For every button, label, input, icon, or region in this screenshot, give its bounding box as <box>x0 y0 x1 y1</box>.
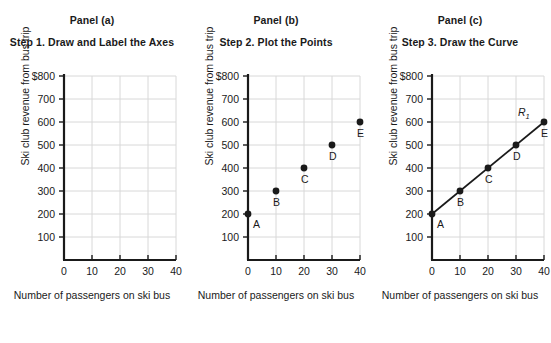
data-point-label-c: C <box>301 173 309 185</box>
panel-a-ytick-700: 700 <box>37 93 55 105</box>
panel-a-ytick-300: 300 <box>37 185 55 197</box>
panel-a-x-axis-label: Number of passengers on ski bus <box>4 288 180 302</box>
panel-c-ytick-700: 700 <box>405 93 423 105</box>
panel-b-ytick-700: 700 <box>221 93 239 105</box>
data-point-label-c: C <box>485 173 493 185</box>
data-point-e <box>357 119 364 126</box>
panel-a-step: Step 1. Draw and Label the Axes <box>6 36 178 50</box>
panel-c-ytick-200: 200 <box>405 208 423 220</box>
panel-c-xtick-10: 10 <box>454 265 466 277</box>
panel-c-xtick-40: 40 <box>538 265 550 277</box>
panel-c-ytick-300: 300 <box>405 185 423 197</box>
panel-b-ytick-800: $800 <box>216 70 240 82</box>
panel-b-ytick-300: 300 <box>221 185 239 197</box>
panel-b-ytick-200: 200 <box>221 208 239 220</box>
panel-b-xtick-40: 40 <box>354 265 366 277</box>
data-point-label-b: B <box>457 196 464 208</box>
data-point-label-d: D <box>329 150 337 162</box>
panel-c-ytick-500: 500 <box>405 139 423 151</box>
panel-b-xtick-30: 30 <box>326 265 338 277</box>
data-point-c <box>485 165 492 172</box>
curve-label-subscript: 1 <box>526 112 530 121</box>
panel-b-ytick-400: 400 <box>221 162 239 174</box>
panel-c-xtick-30: 30 <box>510 265 522 277</box>
data-point-d <box>329 142 336 149</box>
panel-a-xtick-20: 20 <box>114 265 126 277</box>
data-point-label-a: A <box>437 218 444 230</box>
panel-b-xtick-0: 0 <box>245 265 251 277</box>
panel-a-ytick-100: 100 <box>37 231 55 243</box>
data-point-e <box>541 119 548 126</box>
panel-a-xtick-10: 10 <box>86 265 98 277</box>
panel-b: Panel (b) Step 2. Plot the Points Ski cl… <box>184 0 368 343</box>
data-point-a <box>429 211 436 218</box>
panel-c-plot: $800 700 600 500 400 300 200 100 0 10 20… <box>368 68 551 283</box>
panel-c-x-axis-label: Number of passengers on ski bus <box>372 288 548 302</box>
panel-c-ytick-800: $800 <box>400 70 424 82</box>
panel-b-xtick-10: 10 <box>270 265 282 277</box>
panel-b-plot: $800 700 600 500 400 300 200 100 0 10 20… <box>184 68 368 283</box>
panel-a-ytick-500: 500 <box>37 139 55 151</box>
data-point-label-e: E <box>357 127 364 139</box>
data-point-label-e: E <box>541 127 548 139</box>
panel-c-ytick-600: 600 <box>405 116 423 128</box>
data-point-c <box>301 165 308 172</box>
figure-three-panel-graph: Panel (a) Step 1. Draw and Label the Axe… <box>0 0 551 343</box>
data-point-label-d: D <box>513 150 521 162</box>
panel-c-xtick-20: 20 <box>482 265 494 277</box>
panel-c-ytick-100: 100 <box>405 231 423 243</box>
panel-a-gridlines <box>64 76 176 260</box>
panel-c-xtick-0: 0 <box>429 265 435 277</box>
panel-a-ytick-200: 200 <box>37 208 55 220</box>
data-point-b <box>457 188 464 195</box>
data-point-a <box>245 211 252 218</box>
curve-label-r1: R1 <box>518 106 530 121</box>
panel-a: Panel (a) Step 1. Draw and Label the Axe… <box>0 0 184 343</box>
panel-a-ytick-400: 400 <box>37 162 55 174</box>
panel-a-plot: $800 700 600 500 400 300 200 100 0 10 20… <box>0 68 184 283</box>
panel-a-ytick-600: 600 <box>37 116 55 128</box>
panel-c: Panel (c) Step 3. Draw the Curve Ski clu… <box>368 0 551 343</box>
data-point-d <box>513 142 520 149</box>
panel-a-ytick-800: $800 <box>32 70 56 82</box>
panel-a-xtick-0: 0 <box>61 265 67 277</box>
data-point-b <box>273 188 280 195</box>
panel-a-xtick-40: 40 <box>170 265 182 277</box>
data-point-label-b: B <box>273 196 280 208</box>
panel-c-step: Step 3. Draw the Curve <box>374 36 546 50</box>
panel-a-xtick-30: 30 <box>142 265 154 277</box>
panel-b-step: Step 2. Plot the Points <box>190 36 362 50</box>
panel-c-ytick-400: 400 <box>405 162 423 174</box>
panel-b-ytick-500: 500 <box>221 139 239 151</box>
panel-b-x-axis-label: Number of passengers on ski bus <box>188 288 364 302</box>
data-point-label-a: A <box>253 218 260 230</box>
panel-b-ytick-600: 600 <box>221 116 239 128</box>
panel-b-ytick-100: 100 <box>221 231 239 243</box>
panel-b-xtick-20: 20 <box>298 265 310 277</box>
